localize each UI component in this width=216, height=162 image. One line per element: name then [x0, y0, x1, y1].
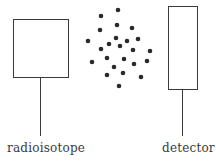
detector-box — [169, 7, 198, 90]
particle-dot — [99, 14, 104, 19]
particle-dot — [122, 57, 127, 62]
particle-dot — [116, 8, 121, 13]
particle-dot — [145, 59, 150, 64]
particle-dot — [112, 65, 117, 70]
particle-dot — [107, 42, 112, 47]
particle-dot — [118, 44, 123, 49]
radioisotope-label: radioisotope — [7, 141, 85, 155]
detector-label: detector — [162, 141, 215, 155]
particle-dot — [105, 73, 110, 78]
diagram-canvas — [0, 0, 216, 162]
particle-dot — [148, 49, 153, 54]
particle-dot — [132, 62, 137, 67]
particle-dot — [131, 48, 136, 53]
radioisotope-box — [14, 20, 69, 78]
particle-dot — [86, 39, 91, 44]
particle-dot — [130, 26, 135, 31]
particle-dot — [136, 37, 141, 42]
particle-dot — [98, 28, 103, 33]
particle-dot — [90, 60, 95, 65]
particle-dot — [115, 23, 120, 28]
particle-dot — [121, 71, 126, 76]
particle-dot — [99, 47, 104, 52]
radiation-particles — [86, 8, 153, 89]
particle-dot — [117, 84, 122, 89]
particle-dot — [114, 36, 119, 41]
particle-dot — [139, 75, 144, 80]
particle-dot — [125, 39, 130, 44]
particle-dot — [105, 56, 110, 61]
